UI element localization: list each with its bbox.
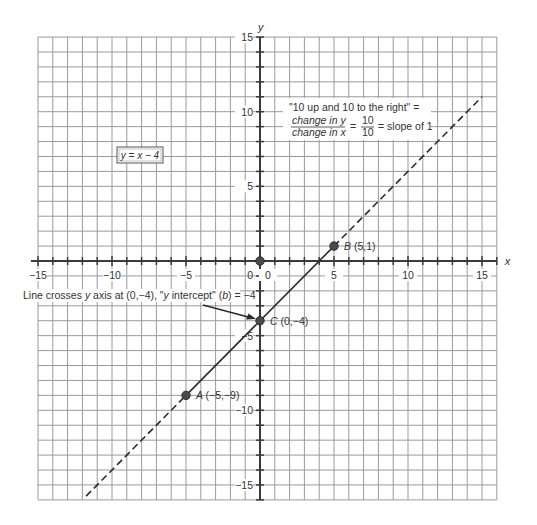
x-tick-label: 0 — [265, 269, 271, 281]
slope-result: = slope of 1 — [378, 120, 433, 132]
intercept-arrow — [203, 305, 252, 318]
point-label-c: C (0,−4) — [270, 315, 308, 327]
axes: xy — [31, 21, 511, 500]
x-tick-label: −5 — [180, 269, 192, 281]
x-tick-label: 5 — [331, 269, 337, 281]
slope-equals: = — [350, 120, 356, 132]
point-c — [256, 317, 264, 325]
slope-denominator: change in x — [292, 126, 346, 138]
x-tick-label: −10 — [103, 269, 121, 281]
y-tick-label: 15 — [241, 31, 253, 43]
y-tick-label: −10 — [235, 404, 253, 416]
y-tick-label: 0 — [247, 269, 253, 281]
y-tick-label: 5 — [247, 180, 253, 192]
y-tick-label: 10 — [241, 106, 253, 118]
point-label-a: A (−5,−9) — [195, 389, 239, 401]
x-tick-label: 15 — [476, 269, 488, 281]
x-tick-label: −15 — [29, 269, 47, 281]
slope-annotation: "10 up and 10 to the right" = change in … — [283, 98, 433, 140]
equation-box: y = x − 4 — [117, 147, 163, 163]
slope-numerator: change in y — [292, 114, 346, 126]
point-label-b: B (5,1) — [344, 240, 376, 252]
equation-label: y = x − 4 — [120, 150, 160, 161]
coordinate-plane: xy −15−10−5051015151050−5−10−15 A (−5,−9… — [0, 0, 537, 525]
slope-line1: "10 up and 10 to the right" = — [289, 101, 419, 113]
point-b — [330, 242, 338, 250]
slope-frac-den: 10 — [362, 126, 374, 138]
y-tick-label: −5 — [241, 330, 253, 342]
arrowhead-icon — [246, 314, 256, 320]
intercept-note: Line crosses y axis at (0,−4), "y interc… — [23, 289, 256, 301]
intercept-annotation: Line crosses y axis at (0,−4), "y interc… — [20, 289, 256, 320]
x-axis-label: x — [504, 255, 511, 267]
x-tick-label: 10 — [402, 269, 414, 281]
y-tick-label: −15 — [235, 479, 253, 491]
y-axis-label: y — [257, 21, 265, 33]
point-a — [182, 391, 190, 399]
point-origin — [256, 257, 264, 265]
slope-frac-num: 10 — [362, 114, 374, 126]
